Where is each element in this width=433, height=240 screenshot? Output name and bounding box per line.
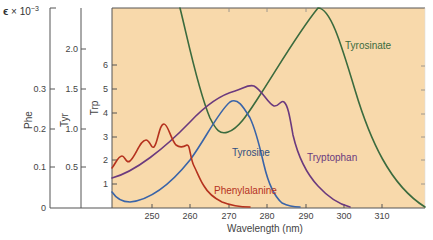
absorption-spectra-chart: 0 0.1 0.2 0.3 0.5 1.0 1.5 2.0 1 2 3 4 5 … — [0, 0, 433, 240]
epsilon-exponent: −3 — [31, 5, 39, 12]
phe-axis-ticks — [50, 89, 55, 167]
tyr-tick-1.5: 1.5 — [65, 84, 78, 94]
x-tick-300: 300 — [336, 211, 351, 221]
tryptophan-label: Tryptophan — [307, 152, 357, 163]
trp-tick-6: 6 — [103, 60, 108, 70]
x-tick-280: 280 — [259, 211, 274, 221]
x-tick-250: 250 — [144, 211, 159, 221]
trp-tick-4: 4 — [103, 108, 108, 118]
trp-tick-5: 5 — [103, 84, 108, 94]
phe-tick-0.3: 0.3 — [33, 84, 46, 94]
tyr-tick-0.5: 0.5 — [65, 162, 78, 172]
tyrosinate-label: Tyrosinate — [345, 40, 392, 51]
phe-tick-0: 0 — [41, 203, 46, 213]
trp-tick-3: 3 — [103, 132, 108, 142]
tyr-axis-title: Tyr — [59, 112, 70, 127]
x-tick-290: 290 — [298, 211, 313, 221]
tyr-axis-ticks — [81, 49, 86, 167]
tyr-tick-2.0: 2.0 — [65, 44, 78, 54]
phe-tick-0.1: 0.1 — [33, 162, 46, 172]
epsilon-unit-label: ϵ × 10−3 — [3, 5, 39, 17]
x-tick-260: 260 — [182, 211, 197, 221]
x-axis-title: Wavelength (nm) — [227, 223, 303, 234]
phe-tick-0.2: 0.2 — [33, 124, 46, 134]
trp-tick-2: 2 — [103, 155, 108, 165]
phenylalanine-label: Phenylalanine — [214, 185, 277, 196]
trp-axis-title: Trp — [89, 100, 100, 115]
tyrosine-label: Tyrosine — [232, 147, 270, 158]
x-tick-310: 310 — [374, 211, 389, 221]
trp-tick-1: 1 — [103, 179, 108, 189]
phe-axis-title: Phe — [23, 111, 34, 129]
x-tick-270: 270 — [221, 211, 236, 221]
plot-area — [112, 8, 425, 208]
